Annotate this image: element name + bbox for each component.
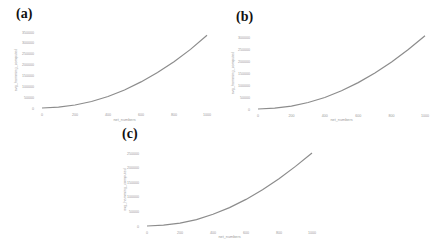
x-tick-label: 0 (146, 231, 148, 235)
y-tick-label: 200000 (238, 60, 250, 64)
x-axis-label: net_numbers (218, 235, 240, 239)
x-tick-label: 600 (243, 231, 249, 235)
x-tick-label: 800 (171, 113, 177, 117)
x-axis-label: net_numbers (330, 118, 352, 122)
y-tick-label: 100000 (238, 84, 250, 88)
y-tick-label: 100000 (127, 195, 139, 199)
y-tick-label: 50000 (24, 96, 34, 100)
y-tick-label: 150000 (238, 72, 250, 76)
chart-a: 0500001000001500002000002500003000003500… (14, 31, 211, 123)
chart-a: 0500001000001500002000002500003000003500… (0, 0, 447, 249)
y-tick-label: 50000 (240, 96, 250, 100)
y-tick-label: 50000 (129, 210, 139, 214)
x-axis-label: net_numbers (113, 118, 135, 122)
y-tick-label: 250000 (238, 48, 250, 52)
y-tick-label: 0 (137, 225, 139, 229)
y-tick-label: 350000 (22, 31, 34, 35)
y-tick-label: 200000 (22, 63, 34, 67)
y-tick-label: 250000 (22, 52, 34, 56)
x-tick-label: 0 (257, 114, 259, 118)
x-tick-label: 1000 (308, 231, 316, 235)
x-tick-label: 0 (41, 113, 43, 117)
x-tick-label: 200 (177, 231, 183, 235)
x-tick-label: 600 (138, 113, 144, 117)
x-tick-label: 800 (389, 114, 395, 118)
data-line (147, 153, 312, 226)
x-tick-label: 200 (72, 113, 78, 117)
y-axis-label: avg_hamming_computed (231, 52, 235, 95)
y-tick-label: 300000 (22, 41, 34, 45)
y-tick-label: 0 (248, 108, 250, 112)
x-tick-label: 400 (322, 114, 328, 118)
y-tick-label: 0 (32, 107, 34, 111)
chart-b: 0500001000001500002000002500003000000200… (231, 36, 429, 123)
x-tick-label: 1000 (203, 113, 211, 117)
y-tick-label: 150000 (127, 181, 139, 185)
x-tick-label: 600 (355, 114, 361, 118)
y-tick-label: 200000 (127, 166, 139, 170)
x-tick-label: 400 (210, 231, 216, 235)
y-tick-label: 100000 (22, 85, 34, 89)
y-tick-label: 150000 (22, 74, 34, 78)
x-tick-label: 200 (288, 114, 294, 118)
data-line (42, 35, 207, 108)
y-tick-label: 250000 (127, 152, 139, 156)
x-tick-label: 1000 (421, 114, 429, 118)
y-axis-label: avg_hamming_computed (14, 49, 18, 92)
data-line (258, 36, 425, 109)
x-tick-label: 800 (276, 231, 282, 235)
x-tick-label: 400 (105, 113, 111, 117)
y-axis-label: avg_hamming_computed (123, 168, 127, 211)
y-tick-label: 300000 (238, 36, 250, 40)
chart-c: 0500001000001500002000002500000200400600… (123, 152, 316, 240)
